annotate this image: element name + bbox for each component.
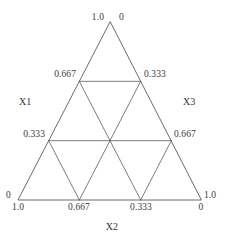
axis-label-x3: X3 (183, 97, 195, 107)
tick-label-bottom-3: 0 (190, 203, 212, 213)
tick-label-row3-left: 0.333 (11, 130, 45, 140)
tick-label-bottom-left-upper: 0 (6, 191, 11, 201)
gridline-x3-0667 (141, 141, 172, 200)
tick-label-apex-right: 0 (119, 13, 124, 23)
tick-label-bottom-1: 0.667 (62, 203, 96, 213)
tick-label-bottom-2: 0.333 (124, 203, 158, 213)
tick-label-bottom-right-upper: 1.0 (204, 191, 216, 201)
tick-label-row2-right: 0.333 (144, 70, 166, 80)
grid-lines (49, 81, 172, 200)
tick-label-row2-left: 0.667 (42, 70, 76, 80)
tick-label-bottom-0: 1.0 (4, 203, 32, 213)
tick-label-apex-left: 1.0 (74, 13, 104, 23)
triangle-outline (18, 22, 201, 200)
ternary-diagram: 1.0 0 0.667 0.333 0.333 0.667 0 1.0 1.0 … (0, 0, 225, 241)
tick-label-row3-right: 0.667 (174, 130, 196, 140)
gridline-x2-0667 (49, 141, 80, 200)
axis-label-x1: X1 (19, 97, 31, 107)
axis-label-x2: X2 (95, 222, 129, 232)
outer-triangle (18, 22, 201, 200)
